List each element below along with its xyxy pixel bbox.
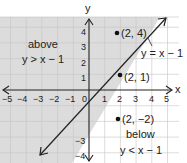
coordinate-plane: y x −5 −4 −3 −2 −1 0 1 2 3 4 5 4 3 2 1 −… bbox=[0, 0, 187, 163]
region-above-inequality: y > x − 1 bbox=[22, 53, 64, 65]
region-below-title: below bbox=[126, 128, 155, 140]
svg-text:−3: −3 bbox=[75, 136, 85, 146]
svg-text:(2, 4): (2, 4) bbox=[121, 27, 147, 39]
svg-text:−4: −4 bbox=[75, 151, 85, 161]
svg-text:(2, −2): (2, −2) bbox=[122, 113, 154, 125]
svg-text:−2: −2 bbox=[49, 94, 59, 104]
label-pointer bbox=[148, 38, 152, 46]
point-2-neg2 bbox=[116, 117, 121, 122]
svg-text:3: 3 bbox=[81, 42, 86, 52]
svg-text:2: 2 bbox=[117, 94, 122, 104]
svg-text:0: 0 bbox=[82, 94, 87, 104]
svg-text:5: 5 bbox=[164, 94, 169, 104]
svg-text:−1: −1 bbox=[65, 94, 75, 104]
svg-text:(2, 1): (2, 1) bbox=[124, 71, 150, 83]
region-above-title: above bbox=[28, 38, 58, 50]
boundary-line-label: y = x − 1 bbox=[141, 47, 183, 59]
svg-text:4: 4 bbox=[149, 94, 154, 104]
y-axis-label: y bbox=[85, 2, 91, 14]
point-2-1 bbox=[118, 73, 123, 78]
x-axis-label: x bbox=[175, 83, 181, 95]
svg-text:−5: −5 bbox=[2, 94, 12, 104]
svg-text:−4: −4 bbox=[17, 94, 27, 104]
svg-text:1: 1 bbox=[102, 94, 107, 104]
svg-text:2: 2 bbox=[81, 58, 86, 68]
svg-text:−3: −3 bbox=[33, 94, 43, 104]
svg-text:3: 3 bbox=[133, 94, 138, 104]
svg-text:1: 1 bbox=[81, 73, 86, 83]
x-tick-labels: −5 −4 −3 −2 −1 0 1 2 3 4 5 bbox=[2, 94, 169, 104]
region-below-inequality: y < x − 1 bbox=[120, 144, 162, 156]
svg-text:4: 4 bbox=[81, 27, 86, 37]
point-2-4 bbox=[115, 31, 120, 36]
